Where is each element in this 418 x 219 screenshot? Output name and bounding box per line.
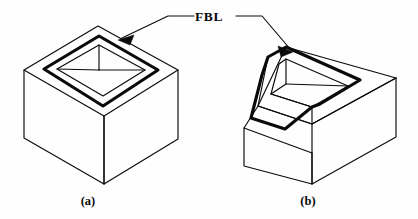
figure-container: FBL (a) (b) [0,0,418,219]
fbl-figure-svg: FBL (a) (b) [0,0,418,219]
caption-b: (b) [300,194,315,208]
shape-b-group [244,47,396,184]
shape-b-pocket-floor-edge-right [286,84,348,86]
caption-a: (a) [81,194,96,208]
shape-a-right-face [104,70,178,184]
fbl-leader-line-left [122,16,194,38]
shape-b-pocket-floor-front-edge [271,94,312,107]
shape-b-right-face [312,78,396,184]
shape-a-group [24,26,178,184]
shape-a-left-face [24,70,104,184]
shape-b-left-face [244,128,312,184]
fbl-annotation-group: FBL [118,9,293,57]
shape-b-pocket-inner-floor [271,59,348,107]
fbl-leader-line-right [236,16,291,50]
fbl-label: FBL [195,9,223,24]
captions-group: (a) (b) [81,194,316,208]
shape-a-pocket-floor-edge-left [57,69,99,70]
shape-b-inclined-face [244,106,312,153]
